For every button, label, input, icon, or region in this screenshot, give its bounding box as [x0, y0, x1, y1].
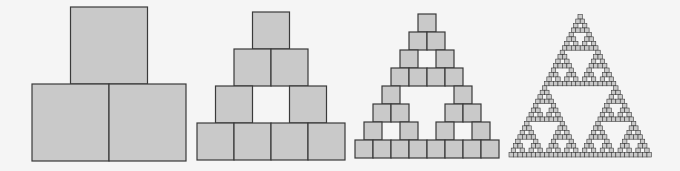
square-cell — [643, 144, 647, 148]
square-cell — [591, 77, 595, 81]
square-cell — [571, 144, 575, 148]
square-cell — [545, 81, 549, 85]
square-cell — [565, 41, 569, 45]
square-cell — [607, 72, 611, 76]
square-cell — [631, 121, 635, 125]
stage-2-figure — [197, 12, 345, 160]
square-cell — [594, 55, 598, 59]
square-cell — [602, 135, 606, 139]
square-cell — [554, 72, 558, 76]
square-cell — [591, 130, 595, 134]
square-cell — [509, 153, 513, 157]
square-cell — [529, 130, 533, 134]
square-cell — [540, 117, 544, 121]
square-cell — [611, 81, 615, 85]
square-cell — [400, 50, 418, 68]
square-cell — [605, 139, 609, 143]
square-cell — [554, 81, 558, 85]
square-cell — [620, 153, 624, 157]
square-cell — [598, 55, 602, 59]
square-cell — [234, 49, 271, 86]
square-cell — [627, 113, 631, 117]
square-cell — [71, 7, 148, 84]
square-cell — [629, 126, 633, 130]
square-cell — [622, 139, 626, 143]
square-cell — [605, 104, 609, 108]
square-cell — [614, 86, 618, 90]
square-cell — [636, 148, 640, 152]
square-cell — [574, 77, 578, 81]
square-cell — [560, 121, 564, 125]
square-cell — [585, 72, 589, 76]
square-cell — [567, 64, 571, 68]
square-cell — [562, 126, 566, 130]
square-cell — [560, 50, 564, 54]
square-cell — [518, 144, 522, 148]
square-cell — [574, 41, 578, 45]
square-cell — [607, 81, 611, 85]
square-cell — [562, 153, 566, 157]
square-cell — [602, 144, 606, 148]
square-cell — [607, 153, 611, 157]
square-cell — [622, 104, 626, 108]
square-cell — [598, 126, 602, 130]
square-cell — [574, 148, 578, 152]
square-cell — [589, 153, 593, 157]
square-cell — [580, 19, 584, 23]
square-cell — [536, 117, 540, 121]
square-cell — [576, 19, 580, 23]
square-cell — [587, 32, 591, 36]
square-cell — [551, 139, 555, 143]
square-cell — [647, 153, 651, 157]
square-cell — [594, 64, 598, 68]
square-cell — [516, 139, 520, 143]
square-cell — [538, 95, 542, 99]
square-cell — [569, 32, 573, 36]
square-cell — [545, 117, 549, 121]
square-cell — [629, 135, 633, 139]
square-cell — [620, 144, 624, 148]
square-cell — [585, 46, 589, 50]
square-cell — [629, 117, 633, 121]
square-cell — [556, 130, 560, 134]
square-cell — [481, 140, 499, 158]
square-cell — [611, 117, 615, 121]
square-cell — [382, 86, 400, 104]
square-cell — [634, 135, 638, 139]
square-cell — [625, 108, 629, 112]
square-cell — [538, 148, 542, 152]
square-cell — [602, 81, 606, 85]
square-cell — [594, 153, 598, 157]
square-cell — [576, 153, 580, 157]
square-cell — [616, 153, 620, 157]
square-cell — [591, 148, 595, 152]
square-cell — [540, 99, 544, 103]
square-cell — [602, 72, 606, 76]
square-cell — [409, 32, 427, 50]
square-cell — [562, 55, 566, 59]
square-cell — [427, 140, 445, 158]
square-cell — [625, 144, 629, 148]
square-cell — [547, 95, 551, 99]
square-cell — [436, 122, 454, 140]
square-cell — [580, 28, 584, 32]
square-cell — [556, 113, 560, 117]
square-cell — [609, 77, 613, 81]
square-cell — [611, 153, 615, 157]
square-cell — [625, 117, 629, 121]
square-cell — [547, 148, 551, 152]
square-cell — [197, 123, 234, 160]
square-cell — [607, 144, 611, 148]
square-cell — [600, 148, 604, 152]
square-cell — [531, 108, 535, 112]
square-cell — [627, 130, 631, 134]
square-cell — [611, 90, 615, 94]
square-cell — [549, 117, 553, 121]
square-cell — [602, 64, 606, 68]
square-cell — [580, 46, 584, 50]
square-cell — [567, 81, 571, 85]
square-cell — [600, 77, 604, 81]
square-cell — [605, 68, 609, 72]
square-cell — [589, 81, 593, 85]
square-cell — [549, 108, 553, 112]
